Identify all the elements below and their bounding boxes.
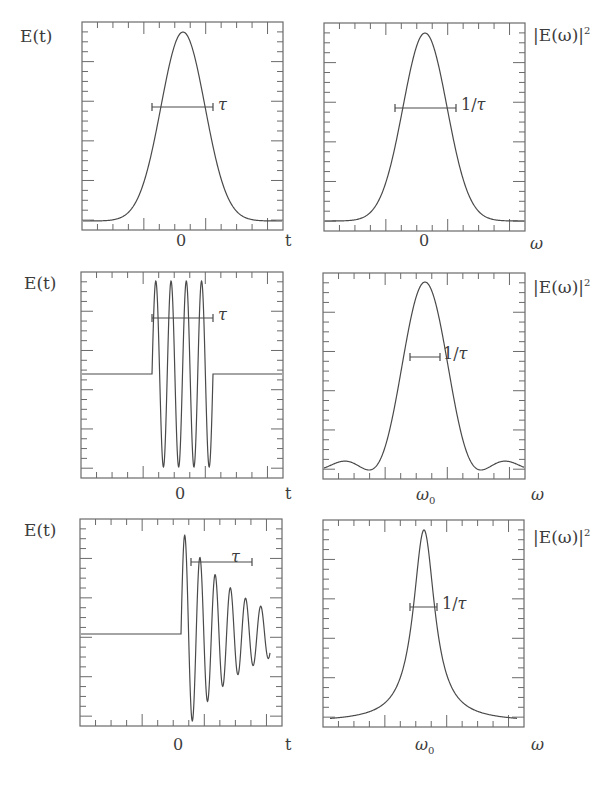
row2-freq-omega0-tick: ω0: [416, 487, 435, 506]
row2-freq-axis-label: ω: [531, 487, 544, 503]
row3-freq-omega0-tick: ω0: [415, 737, 434, 756]
row3-omega0-main: ω: [415, 735, 428, 754]
gaussian-freq-curve: [325, 33, 524, 221]
row2-ylabel-freq-text: |E(ω)|: [533, 277, 584, 297]
gaussian-time-frame: [82, 22, 283, 230]
row2-inverse-tau-num: 1/: [443, 344, 459, 363]
row1-inverse-tau-num: 1/: [461, 95, 477, 114]
row3-ylabel-freq-sup: 2: [584, 527, 590, 538]
square-wavepacket-time-curve: [82, 281, 282, 467]
row3-tau-annotation: τ: [231, 549, 240, 565]
row3-time-zero-tick: 0: [173, 737, 183, 753]
row2-inverse-tau-sym: τ: [459, 344, 468, 363]
row3-inverse-tau-sym: τ: [458, 594, 467, 613]
row3-inverse-tau-annotation: 1/τ: [442, 596, 466, 612]
lorentzian-spectrum-curve: [330, 530, 517, 718]
row1-ylabel-freq: |E(ω)|2: [533, 26, 590, 44]
row3-omega0-sub: 0: [428, 745, 434, 756]
sinc-spectrum-curve: [324, 282, 524, 470]
plot-canvas: [0, 0, 612, 786]
row1-freq-zero-tick: 0: [419, 233, 429, 249]
sinc-spectrum-width-bar: [410, 353, 440, 361]
sinc-spectrum-ticks: [323, 273, 525, 479]
row2-tau-annotation: τ: [218, 307, 227, 323]
row2-omega0-main: ω: [416, 485, 429, 504]
row3-ylabel-freq: |E(ω)|2: [533, 528, 590, 546]
row2-ylabel-time: E(t): [24, 275, 57, 292]
row1-inverse-tau-sym: τ: [477, 95, 486, 114]
row1-time-axis-label: t: [285, 233, 291, 249]
sinc-spectrum-frame: [323, 273, 525, 479]
row1-ylabel-time: E(t): [20, 28, 53, 45]
row1-ylabel-freq-text: |E(ω)|: [533, 25, 584, 45]
row3-inverse-tau-num: 1/: [442, 594, 458, 613]
row1-inverse-tau-annotation: 1/τ: [461, 97, 485, 113]
row2-omega0-sub: 0: [429, 495, 435, 506]
gaussian-time-curve: [83, 32, 282, 221]
row3-time-axis-label: t: [285, 737, 291, 753]
row1-freq-axis-label: ω: [530, 236, 543, 252]
row3-ylabel-freq-text: |E(ω)|: [533, 527, 584, 547]
gaussian-freq-ticks: [324, 23, 525, 231]
lorentzian-spectrum-frame: [323, 520, 524, 727]
row2-ylabel-freq: |E(ω)|2: [533, 278, 590, 296]
row1-ylabel-freq-sup: 2: [584, 25, 590, 36]
pulse-spectrum-figure: E(t) |E(ω)|2 τ 1/τ 0 t 0 ω E(t) |E(ω)|2 …: [0, 0, 612, 786]
lorentzian-spectrum-ticks: [323, 520, 524, 727]
damped-oscillation-time-curve: [81, 535, 270, 721]
row3-freq-axis-label: ω: [531, 737, 544, 753]
row1-tau-annotation: τ: [218, 97, 227, 113]
gaussian-freq-frame: [324, 23, 525, 231]
row2-time-axis-label: t: [285, 486, 291, 502]
row3-ylabel-time: E(t): [24, 522, 57, 539]
row1-time-zero-tick: 0: [176, 233, 186, 249]
gaussian-time-ticks: [82, 22, 283, 230]
row2-inverse-tau-annotation: 1/τ: [443, 346, 467, 362]
row2-time-zero-tick: 0: [175, 486, 185, 502]
row2-ylabel-freq-sup: 2: [584, 277, 590, 288]
